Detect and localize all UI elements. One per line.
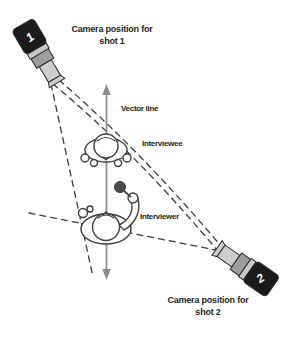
interviewee-right-knee: [115, 160, 122, 167]
interviewee-figure: [81, 134, 131, 167]
camera-2-icon: 2: [210, 238, 280, 297]
camera-setup-diagram: 1 2: [0, 0, 298, 339]
diagram-canvas: 1 2 Camera position for shot 1 Vector li…: [0, 0, 298, 339]
camera1-caption: Camera position for shot 1: [62, 23, 162, 47]
vector-line-label: Vector line: [121, 104, 158, 113]
camera1-caption-line2: shot 1: [62, 35, 162, 47]
interviewer-figure: [79, 182, 139, 245]
camera-1-icon: 1: [12, 18, 68, 89]
interviewer-left-fingers: [87, 206, 93, 212]
vector-arrowhead-down: [102, 269, 110, 280]
interviewer-left-hand: [79, 209, 88, 218]
vector-line-arrow: [102, 84, 110, 280]
interviewee-left-knee: [91, 160, 98, 167]
interviewer-head: [93, 214, 120, 241]
camera2-caption-line2: shot 2: [158, 306, 258, 318]
interviewee-right-hand: [123, 154, 131, 162]
camera1-caption-line1: Camera position for: [62, 23, 162, 35]
interviewer-right-arm: [119, 199, 139, 230]
microphone-icon: [115, 182, 126, 193]
interviewee-label: Interviewee: [142, 139, 182, 148]
camera2-caption-line1: Camera position for: [158, 294, 258, 306]
interviewer-label: Interviewer: [140, 212, 179, 221]
camera2-caption: Camera position for shot 2: [158, 294, 258, 318]
interviewee-left-hand: [81, 154, 89, 162]
vector-arrowhead-up: [102, 84, 110, 95]
